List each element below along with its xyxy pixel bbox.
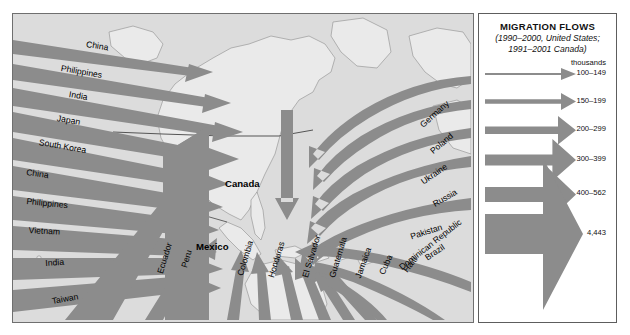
- map-label-india-2: India: [45, 257, 64, 268]
- legend-subtitle: (1990–2000, United States; 1991–2001 Can…: [479, 33, 616, 54]
- legend-value-5: 4,443: [587, 228, 606, 237]
- map-label-canada: Canada: [225, 178, 260, 189]
- map-panel: China Philippines India Japan South Kore…: [12, 13, 474, 323]
- map-label-vietnam: Vietnam: [28, 225, 60, 237]
- legend-title: MIGRATION FLOWS: [479, 21, 616, 32]
- map-label-mexico: Mexico: [196, 241, 229, 252]
- legend-value-0: 100–149: [576, 68, 606, 77]
- legend-panel: MIGRATION FLOWS (1990–2000, United State…: [478, 13, 617, 323]
- legend-subtitle-line2: 1991–2001 Canada): [479, 44, 616, 55]
- legend-value-2: 200–299: [576, 124, 606, 133]
- legend-value-1: 150–199: [576, 96, 606, 105]
- legend-arrow-0: [485, 66, 578, 82]
- legend-arrow-5: [485, 156, 585, 312]
- migration-flows-figure: China Philippines India Japan South Kore…: [0, 0, 630, 335]
- legend-subtitle-line1: (1990–2000, United States;: [479, 33, 616, 44]
- legend-arrow-1: [485, 91, 578, 112]
